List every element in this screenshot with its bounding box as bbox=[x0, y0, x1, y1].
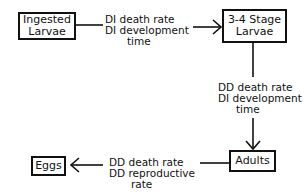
node-ingested-larvae: Ingested Larvae bbox=[18, 12, 76, 40]
node-label: Larvae bbox=[28, 26, 65, 38]
node-adults: Adults bbox=[229, 150, 276, 172]
node-3-4-stage-larvae: 3-4 Stage Larvae bbox=[222, 9, 287, 43]
node-eggs: Eggs bbox=[31, 156, 66, 176]
edge-label-line: time bbox=[218, 104, 302, 115]
edge-label-ingested-to-stage: DI death rate DI development time bbox=[105, 14, 189, 47]
edge-label-line: rate bbox=[109, 179, 195, 190]
node-label: Larvae bbox=[236, 26, 273, 38]
edge-label-adults-to-eggs: DD death rate DD reproductive rate bbox=[109, 157, 195, 190]
node-label: Adults bbox=[235, 155, 269, 167]
edge-label-line: time bbox=[105, 36, 189, 47]
edge-label-line: DD reproductive bbox=[109, 168, 195, 179]
node-label: Eggs bbox=[35, 160, 62, 172]
edge-label-stage-to-adults: DD death rate DI development time bbox=[218, 82, 302, 115]
edge-label-line: DI development bbox=[218, 93, 302, 104]
